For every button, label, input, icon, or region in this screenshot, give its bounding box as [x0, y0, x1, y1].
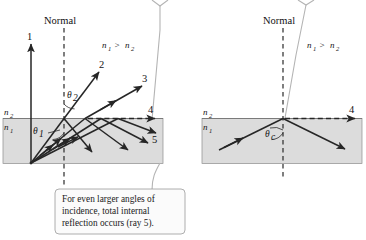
callout-line-3: reflection occurs (ray 5). [62, 218, 154, 229]
right-index-condition: n 1 > n 2 [307, 40, 340, 52]
leader-fork-right [298, 0, 314, 5]
left-medium-n2-symbol: n [4, 107, 9, 117]
left-ray-3-label: 3 [142, 73, 147, 84]
left-ray-2-label: 2 [99, 59, 104, 70]
left-theta2-subscript: 2 [73, 93, 78, 103]
left-theta1-subscript: 1 [39, 129, 44, 139]
left-normal-label: Normal [44, 15, 76, 26]
right-medium-slab [202, 119, 362, 164]
left-panel: Normal n 1 > n 2 n 2 n 1 1 [3, 15, 163, 185]
left-ray-4-label: 4 [148, 104, 154, 115]
left-n1-subscript: 1 [108, 45, 111, 52]
callout-line-1: For even larger angles of [62, 194, 156, 204]
left-medium-n1-symbol: n [4, 122, 9, 132]
callout-annotation: For even larger angles of incidence, tot… [55, 163, 185, 234]
left-ray-5-label: 5 [152, 134, 157, 145]
right-normal-label: Normal [263, 15, 295, 26]
left-theta2-symbol: θ [67, 90, 72, 100]
right-panel: Normal n 1 > n 2 n 2 n 1 4 [202, 5, 362, 180]
right-medium-n1-symbol: n [203, 122, 208, 132]
left-ray-3-midarrow [100, 101, 116, 110]
right-n2-subscript: 2 [336, 45, 340, 52]
right-medium-n2-subscript: 2 [209, 112, 213, 119]
callout-leader-line [152, 163, 160, 190]
left-n2-symbol: n [125, 40, 130, 50]
right-medium-n1-subscript: 1 [209, 127, 212, 134]
left-theta2-label: θ 2 [67, 90, 78, 103]
left-n1-symbol: n [102, 40, 107, 50]
physics-ray-diagram: Normal n 1 > n 2 n 2 n 1 1 [0, 0, 366, 240]
left-medium-n1-subscript: 1 [10, 127, 13, 134]
right-theta-c-symbol: θ [265, 129, 270, 139]
right-n1-symbol: n [307, 40, 312, 50]
leader-fork-left [152, 0, 168, 6]
right-ray-4-label: 4 [349, 104, 355, 115]
left-relation-symbol: > [114, 40, 120, 50]
right-medium-upper-index: n 2 [203, 107, 213, 119]
callout-line-2: incidence, total internal [62, 206, 150, 216]
left-index-condition: n 1 > n 2 [102, 40, 135, 52]
right-n2-symbol: n [330, 40, 335, 50]
left-medium-upper-index: n 2 [4, 107, 14, 119]
right-relation-symbol: > [319, 40, 325, 50]
right-n1-subscript: 1 [313, 45, 316, 52]
left-theta1-symbol: θ [33, 126, 38, 136]
right-medium-n2-symbol: n [203, 107, 208, 117]
leader-stem-left [152, 6, 160, 120]
left-medium-n2-subscript: 2 [10, 112, 14, 119]
figure-root: Normal n 1 > n 2 n 2 n 1 1 [0, 0, 366, 240]
left-n2-subscript: 2 [131, 45, 135, 52]
left-ray-1-label: 1 [27, 31, 32, 42]
